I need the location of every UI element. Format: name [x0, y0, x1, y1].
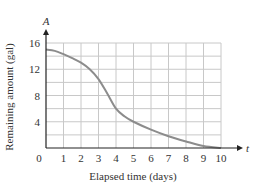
y-tick-label: 16: [29, 37, 41, 49]
x-tick-label: 10: [216, 152, 228, 164]
y-tick-label: 4: [35, 116, 41, 128]
x-axis-name: t: [246, 142, 250, 154]
x-tick-label: 2: [78, 152, 84, 164]
x-tick-label: 1: [61, 152, 67, 164]
x-tick-label: 3: [96, 152, 102, 164]
y-tick-label: 12: [29, 63, 40, 75]
y-tick-label: 8: [35, 90, 41, 102]
x-axis-label: Elapsed time (days): [89, 170, 177, 183]
x-tick-label: 9: [201, 152, 207, 164]
x-tick-label: 7: [166, 152, 172, 164]
y-axis-name: A: [42, 15, 50, 27]
x-tick-label: 8: [183, 152, 189, 164]
chart-canvas: 012345678910481216 Elapsed time (days) R…: [0, 0, 262, 190]
axes: [43, 29, 243, 151]
x-axis-arrow-icon: [237, 145, 243, 151]
x-tick-label: 6: [148, 152, 154, 164]
x-tick-label: 5: [131, 152, 137, 164]
y-axis-arrow-icon: [43, 29, 49, 35]
x-tick-label: 0: [36, 152, 42, 164]
y-axis-label: Remaining amount (gal): [3, 43, 16, 151]
x-tick-label: 4: [113, 152, 119, 164]
